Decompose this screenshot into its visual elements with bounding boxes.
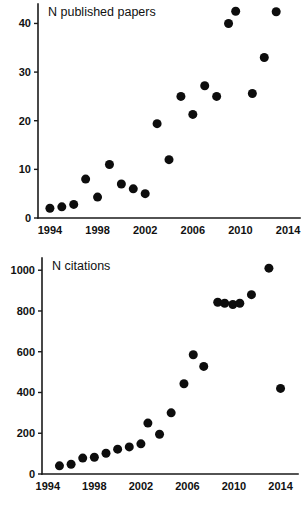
y-tick-label: 20 — [19, 115, 31, 127]
x-tick-label: 2006 — [175, 480, 199, 492]
y-tick-label: 0 — [29, 468, 35, 480]
data-point — [117, 179, 126, 188]
data-point — [141, 189, 150, 198]
data-point — [129, 184, 138, 193]
data-point — [136, 439, 145, 448]
data-point — [102, 449, 111, 458]
data-point — [125, 442, 134, 451]
data-point — [264, 264, 273, 273]
data-point — [231, 7, 240, 16]
y-tick-label: 30 — [19, 66, 31, 78]
plot-title: N citations — [52, 259, 110, 273]
x-tick-label: 1994 — [38, 224, 63, 236]
data-point — [220, 299, 229, 308]
x-tick-label: 2006 — [181, 224, 205, 236]
data-point — [55, 461, 64, 470]
data-point — [248, 89, 257, 98]
papers-scatter-plot: 010203040199419982002200620102014N publi… — [0, 0, 307, 245]
y-tick-label: 200 — [17, 427, 35, 439]
plot-title: N published papers — [48, 5, 156, 19]
data-point — [57, 202, 66, 211]
data-point — [78, 454, 87, 463]
y-tick-label: 600 — [17, 346, 35, 358]
y-tick-label: 400 — [17, 386, 35, 398]
x-tick-label: 2002 — [133, 224, 157, 236]
data-point — [153, 119, 162, 128]
data-point — [189, 350, 198, 359]
data-point — [105, 160, 114, 169]
data-point — [199, 362, 208, 371]
data-point — [45, 204, 54, 213]
publications-and-citations-figure: 010203040199419982002200620102014N publi… — [0, 0, 307, 505]
data-point — [176, 92, 185, 101]
data-point — [272, 7, 281, 16]
data-point — [67, 460, 76, 469]
y-tick-label: 800 — [17, 305, 35, 317]
data-point — [81, 175, 90, 184]
data-point — [188, 110, 197, 119]
x-tick-label: 1998 — [82, 480, 106, 492]
x-tick-label: 2014 — [276, 224, 301, 236]
x-tick-label: 2010 — [222, 480, 246, 492]
x-tick-label: 2014 — [268, 480, 293, 492]
data-point — [224, 19, 233, 28]
x-tick-label: 2010 — [228, 224, 252, 236]
y-tick-label: 40 — [19, 17, 31, 29]
x-tick-label: 1998 — [85, 224, 109, 236]
data-point — [247, 290, 256, 299]
data-point — [143, 419, 152, 428]
data-point — [235, 299, 244, 308]
citations-scatter-plot: 0200400600800100019941998200220062010201… — [0, 252, 307, 505]
data-point — [276, 384, 285, 393]
data-point — [93, 193, 102, 202]
papers-panel: 010203040199419982002200620102014N publi… — [0, 0, 307, 245]
y-tick-label: 10 — [19, 163, 31, 175]
data-point — [200, 81, 209, 90]
y-tick-label: 1000 — [11, 264, 35, 276]
data-point — [212, 92, 221, 101]
data-point — [113, 445, 122, 454]
data-point — [155, 430, 164, 439]
x-tick-label: 1994 — [36, 480, 61, 492]
data-point — [90, 453, 99, 462]
y-tick-label: 0 — [25, 212, 31, 224]
data-point — [167, 408, 176, 417]
data-point — [165, 155, 174, 164]
data-point — [69, 200, 78, 209]
x-tick-label: 2002 — [129, 480, 153, 492]
data-point — [260, 53, 269, 62]
data-point — [179, 379, 188, 388]
citations-panel: 0200400600800100019941998200220062010201… — [0, 252, 307, 505]
